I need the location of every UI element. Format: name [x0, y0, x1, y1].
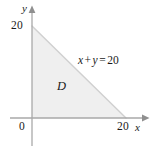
x-axis-label: x	[135, 122, 140, 133]
y-axis-label: y	[22, 3, 27, 14]
equation-plus-operator: +	[83, 54, 93, 66]
region-label-d: D	[57, 80, 66, 93]
y-tick-label-20: 20	[11, 20, 23, 32]
line-equation-label: x+y=20	[78, 55, 119, 67]
figure-container: y x 20 0 20 D x+y=20	[0, 0, 160, 152]
x-tick-label-20: 20	[117, 121, 129, 133]
y-axis-arrowhead	[29, 6, 36, 14]
equation-equals-operator: =	[98, 54, 108, 66]
equation-term-y: y	[93, 54, 98, 66]
equation-value-20: 20	[107, 54, 119, 66]
origin-label: 0	[19, 121, 25, 133]
x-axis-arrowhead	[142, 115, 150, 122]
